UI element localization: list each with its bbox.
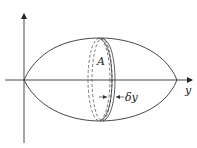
disk-hidden-edge xyxy=(88,39,110,121)
solid-outline-bottom xyxy=(24,80,177,121)
area-label: A xyxy=(97,56,105,67)
horizontal-axis-label: y xyxy=(185,85,191,96)
solid-of-revolution-diagram: A δy y xyxy=(0,0,197,148)
diagram-canvas xyxy=(0,0,197,148)
thickness-label: δy xyxy=(125,92,138,103)
